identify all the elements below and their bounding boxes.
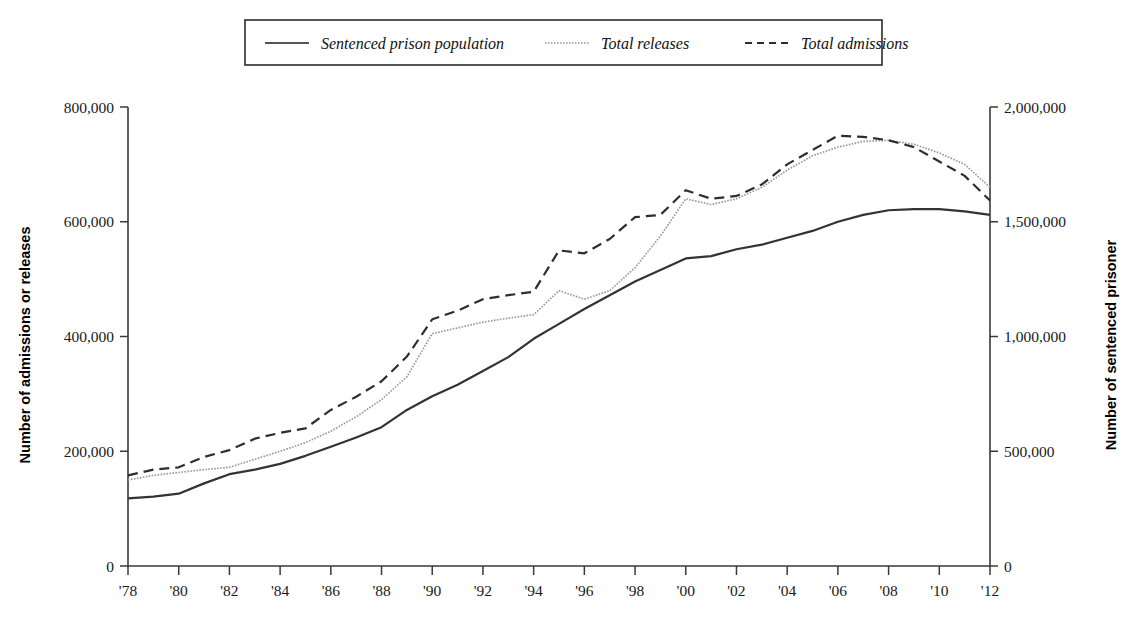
plot-frame — [128, 107, 990, 566]
x-axis-tick-label: '90 — [423, 582, 442, 599]
series-line-solid — [128, 209, 990, 498]
y-axis-tick-label: 0 — [106, 558, 114, 575]
x-axis-tick-label: '88 — [372, 582, 391, 599]
x-axis-tick-label: '08 — [879, 582, 898, 599]
y-axis-tick-label: 600,000 — [64, 213, 115, 230]
y-axis-tick-label: 200,000 — [64, 443, 115, 460]
x-axis-tick-label: '86 — [322, 582, 341, 599]
x-axis-tick-label: '84 — [271, 582, 290, 599]
x-axis-tick-label: '06 — [829, 582, 848, 599]
axis-titles: Number of admissions or releases Number … — [17, 227, 1119, 464]
x-axis-tick-label: '92 — [474, 582, 492, 599]
x-axis-tick-label: '94 — [524, 582, 543, 599]
y2-axis-tick-label: 2,000,000 — [1004, 99, 1066, 116]
x-axis-tick-label: '10 — [930, 582, 949, 599]
chart-legend: Sentenced prison populationTotal release… — [245, 20, 908, 65]
series-line-dashed — [128, 136, 990, 476]
legend-label: Total admissions — [801, 35, 908, 52]
x-axis-tick-label: '00 — [677, 582, 696, 599]
x-axis-tick-label: '96 — [575, 582, 594, 599]
y-axis-title: Number of admissions or releases — [17, 227, 33, 464]
x-axis-tick-label: '82 — [220, 582, 238, 599]
y2-axis-tick-label: 500,000 — [1004, 443, 1055, 460]
line-chart-figure: Sentenced prison populationTotal release… — [0, 0, 1138, 625]
legend-label: Total releases — [601, 35, 689, 52]
x-axis-tick-label: '04 — [778, 582, 797, 599]
x-axis-tick-label: '98 — [626, 582, 645, 599]
x-axis-tick-label: '78 — [119, 582, 138, 599]
x-axis-tick-label: '02 — [727, 582, 745, 599]
series-line-dotted — [128, 140, 990, 480]
y2-axis-title: Number of sentenced prisoner — [1103, 239, 1119, 450]
y-axis-tick-label: 800,000 — [64, 99, 115, 116]
x-axis-tick-label: '80 — [170, 582, 189, 599]
chart-series-group — [128, 136, 990, 499]
y2-axis-tick-label: 1,500,000 — [1004, 213, 1066, 230]
y2-axis-tick-label: 0 — [1004, 558, 1012, 575]
legend-label: Sentenced prison population — [321, 35, 504, 53]
chart-axes: 0200,000400,000600,000800,0000500,0001,0… — [64, 99, 1067, 600]
y-axis-tick-label: 400,000 — [64, 328, 115, 345]
x-axis-tick-label: '12 — [981, 582, 999, 599]
y2-axis-tick-label: 1,000,000 — [1004, 328, 1066, 345]
